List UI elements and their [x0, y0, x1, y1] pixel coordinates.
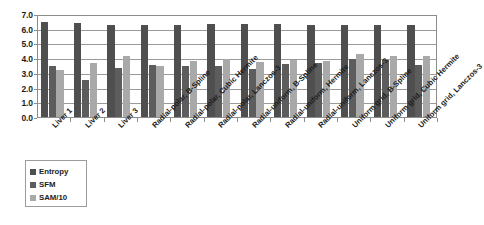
y-axis-tick-label: 2.0 [3, 85, 33, 94]
bar-sfm [149, 65, 156, 117]
x-axis-tick-mark [404, 118, 405, 122]
y-axis-tick-label: 0.0 [3, 114, 33, 123]
legend-label-sam: SAM/10 [39, 194, 67, 202]
legend-swatch-sfm-icon [30, 182, 36, 188]
legend-label-sfm: SFM [39, 181, 55, 189]
x-axis-tick-mark [270, 118, 271, 122]
chart-legend: Entropy SFM SAM/10 [25, 160, 87, 207]
bar-entropy [107, 25, 114, 117]
x-axis-tick-mark [204, 118, 205, 122]
y-axis-tick-label: 3.0 [3, 70, 33, 79]
bar-sfm [82, 80, 89, 117]
y-axis-tick-label: 7.0 [3, 11, 33, 20]
y-axis-tick-label: 1.0 [3, 99, 33, 108]
legend-item-entropy: Entropy [30, 165, 83, 178]
legend-swatch-entropy-icon [30, 169, 36, 175]
bar-sam [123, 56, 130, 118]
bar-group [70, 15, 103, 117]
x-axis-tick-mark [437, 118, 438, 122]
x-axis-tick-mark [170, 118, 171, 122]
bar-group [104, 15, 137, 117]
y-axis-tick-mark [34, 118, 37, 119]
bar-entropy [74, 23, 81, 117]
y-axis-tick-label: 4.0 [3, 55, 33, 64]
x-axis-tick-mark [304, 118, 305, 122]
bar-group [137, 15, 170, 117]
y-axis-tick-label: 5.0 [3, 40, 33, 49]
x-axis-tick-mark [337, 118, 338, 122]
x-axis-tick-mark [237, 118, 238, 122]
legend-label-entropy: Entropy [39, 168, 68, 176]
x-axis-tick-mark [104, 118, 105, 122]
bar-sfm [49, 66, 56, 117]
bar-entropy [141, 25, 148, 117]
x-axis-tick-mark [370, 118, 371, 122]
x-axis-tick-mark [70, 118, 71, 122]
legend-swatch-sam-icon [30, 195, 36, 201]
x-axis-tick-mark [137, 118, 138, 122]
legend-item-sfm: SFM [30, 178, 83, 191]
bar-group [37, 15, 70, 117]
bar-entropy [41, 22, 48, 117]
bar-sfm [115, 68, 122, 117]
y-axis-tick-label: 6.0 [3, 26, 33, 35]
legend-item-sam: SAM/10 [30, 191, 83, 204]
